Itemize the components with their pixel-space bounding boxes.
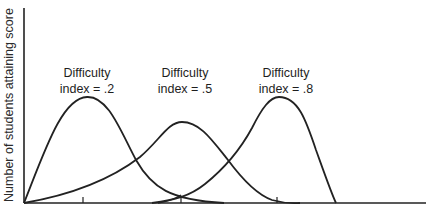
difficulty-curves-chart <box>0 0 431 214</box>
curve-label-0.2: Difficulty index = .2 <box>60 65 115 97</box>
curve-difficulty-0.2 <box>24 97 224 203</box>
curve-label-value: index = .8 <box>259 81 314 97</box>
curve-difficulty-0.5 <box>24 122 300 203</box>
curve-label-title: Difficulty <box>259 65 314 81</box>
curve-label-title: Difficulty <box>158 65 213 81</box>
y-axis-label: Number of students attaining score <box>2 8 16 202</box>
curve-label-value: index = .5 <box>158 81 213 97</box>
curve-label-0.8: Difficulty index = .8 <box>259 65 314 97</box>
curve-difficulty-0.8 <box>152 97 336 203</box>
curve-label-value: index = .2 <box>60 81 115 97</box>
curve-label-0.5: Difficulty index = .5 <box>158 65 213 97</box>
curve-label-title: Difficulty <box>60 65 115 81</box>
